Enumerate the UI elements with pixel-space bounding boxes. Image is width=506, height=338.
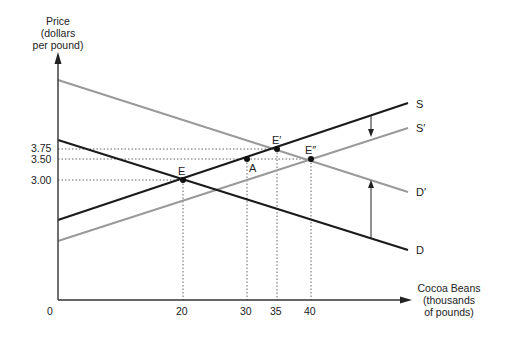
point-e-prime (274, 146, 280, 152)
point-label-e: E (178, 165, 185, 177)
y-tick-350: 3.50 (31, 153, 51, 165)
curve-label-s: S (416, 98, 423, 110)
y-axis-label-line2: (dollars (28, 27, 88, 39)
curve-label-d-prime: D′ (416, 186, 426, 198)
y-axis-label-line3: per pound) (28, 39, 88, 51)
x-axis-label-line3: of pounds) (410, 306, 488, 318)
curve-d (58, 140, 408, 250)
origin-label: 0 (47, 305, 53, 317)
point-label-e-double-prime: E″ (305, 144, 316, 156)
y-axis-label-line1: Price (28, 15, 88, 27)
curve-d-prime (58, 80, 408, 192)
y-axis-label: Price (dollars per pound) (28, 15, 88, 51)
y-tick-300: 3.00 (31, 174, 51, 186)
point-label-a: A (249, 162, 256, 174)
y-axis-arrow-icon (55, 52, 62, 64)
x-tick-30: 30 (240, 305, 252, 317)
arrow-down-icon (368, 129, 374, 137)
curve-label-s-prime: S′ (416, 122, 425, 134)
x-axis-label-line1: Cocoa Beans (410, 282, 488, 294)
point-label-e-prime: E′ (272, 134, 281, 146)
x-axis-label: Cocoa Beans (thousands of pounds) (410, 282, 488, 318)
x-axis-label-line2: (thousands (410, 294, 488, 306)
curve-label-d: D (416, 244, 424, 256)
point-e-double-prime (308, 156, 314, 162)
curve-s (58, 103, 408, 220)
x-tick-40: 40 (304, 305, 316, 317)
curve-s-prime (58, 128, 408, 241)
x-tick-20: 20 (176, 305, 188, 317)
x-tick-35: 35 (270, 305, 282, 317)
point-e (180, 177, 186, 183)
